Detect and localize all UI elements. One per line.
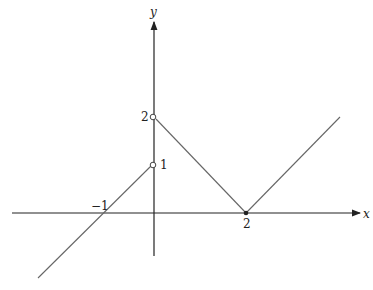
segment-left (38, 166, 151, 278)
segment-right (246, 117, 340, 213)
filled-point-2-0 (244, 211, 249, 216)
segment-middle (156, 119, 246, 213)
y-axis-label: y (149, 5, 157, 19)
open-point-0-1 (150, 162, 156, 168)
tick-label-y-1: 1 (160, 158, 168, 172)
open-point-0-2 (150, 114, 156, 120)
tick-label-y-2: 2 (141, 110, 149, 124)
tick-label-x-2: 2 (243, 217, 251, 231)
function-graph: y x −1 2 1 2 (0, 0, 373, 290)
tick-label-x-neg1: −1 (91, 199, 109, 213)
x-axis-label: x (363, 207, 370, 221)
